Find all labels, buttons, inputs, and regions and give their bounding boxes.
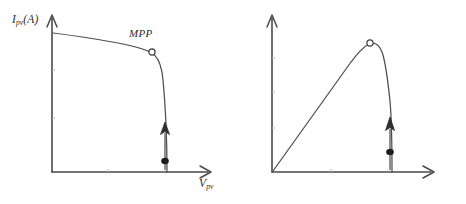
iv-tick-marks	[52, 70, 108, 172]
iv-mpp-marker	[149, 49, 155, 55]
iv-x-axis	[52, 166, 211, 178]
pv-characteristic-curve	[273, 43, 392, 172]
iv-x-axis-label: Vpv	[199, 178, 213, 190]
pv-operating-point-dot	[386, 149, 393, 155]
pv-mpp-marker	[367, 40, 373, 46]
pv-operating-point-arrow	[386, 117, 395, 170]
iv-operating-point-arrow	[161, 122, 170, 170]
iv-mpp-label: MPP	[129, 28, 153, 39]
iv-operating-point-dot	[161, 158, 168, 164]
pv-y-axis	[267, 15, 277, 172]
iv-y-axis	[47, 15, 57, 172]
figure-root: Ipv(A) Vpv MPP	[0, 0, 466, 204]
panel-pv-curve: Ppv(W) Vpv MPP	[233, 0, 466, 204]
panel-iv-curve: Ipv(A) Vpv MPP	[0, 0, 233, 204]
iv-y-axis-label: Ipv(A)	[12, 14, 38, 26]
pv-x-axis	[272, 166, 434, 178]
pv-tick-marks	[272, 58, 331, 172]
